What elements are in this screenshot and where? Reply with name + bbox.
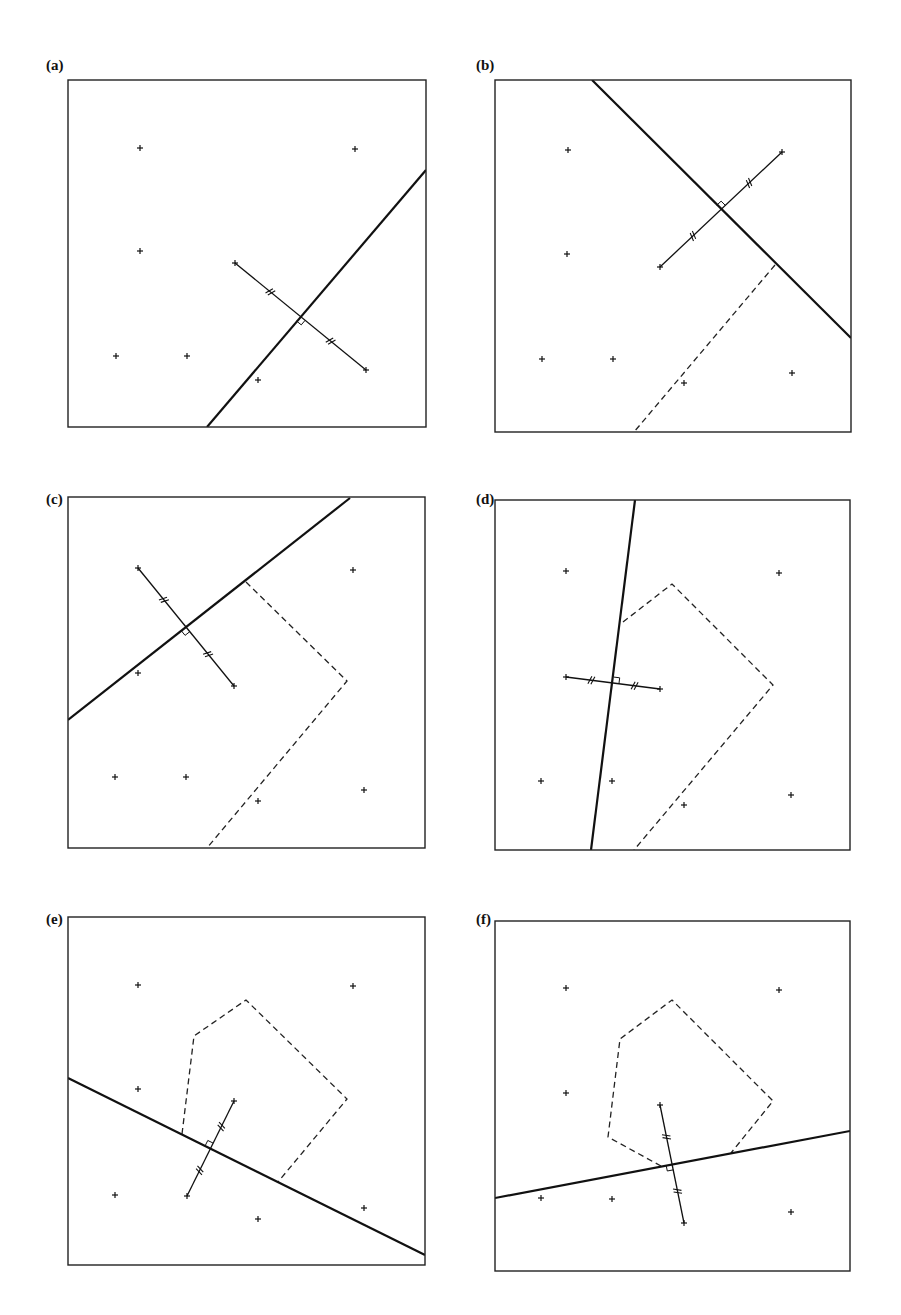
site-point-icon: [113, 353, 119, 359]
equal-length-tick-icon: [663, 1138, 671, 1139]
site-point-icon: [539, 356, 545, 362]
site-point-icon: [609, 1196, 615, 1202]
panel-b: [495, 80, 851, 432]
site-point-icon: [564, 251, 570, 257]
site-point-icon: [255, 798, 261, 804]
site-point-icon: [255, 377, 261, 383]
panel-c: [68, 497, 425, 848]
site-point-icon: [352, 146, 358, 152]
site-point-icon: [563, 985, 569, 991]
connecting-segment: [235, 263, 366, 370]
site-point-icon: [776, 987, 782, 993]
equal-length-tick-icon: [674, 1192, 682, 1193]
perpendicular-bisector-line: [68, 1078, 425, 1255]
equal-length-tick-icon: [746, 180, 749, 188]
site-point-icon: [789, 370, 795, 376]
site-point-icon: [112, 774, 118, 780]
panel-frame: [495, 80, 851, 432]
site-point-icon: [776, 570, 782, 576]
panel-content: [539, 80, 851, 432]
equal-length-tick-icon: [662, 1135, 670, 1136]
site-point-icon: [137, 248, 143, 254]
perpendicular-bisector-line: [68, 498, 350, 720]
site-point-icon: [681, 802, 687, 808]
connecting-segment: [187, 1101, 234, 1196]
panel-d: [495, 500, 850, 850]
site-point-icon: [565, 147, 571, 153]
panel-f: [495, 921, 850, 1271]
panel-frame: [495, 500, 850, 850]
site-point-icon: [135, 670, 141, 676]
site-point-icon: [255, 1216, 261, 1222]
panel-frame: [495, 921, 850, 1271]
site-point-icon: [135, 1086, 141, 1092]
equal-length-tick-icon: [692, 231, 695, 239]
panel-content: [113, 145, 426, 427]
equal-length-tick-icon: [748, 178, 751, 186]
panel-frame: [68, 917, 425, 1265]
site-point-icon: [112, 1192, 118, 1198]
site-point-icon: [184, 353, 190, 359]
site-point-icon: [361, 1205, 367, 1211]
dashed-region-boundary: [634, 265, 775, 432]
site-point-icon: [609, 778, 615, 784]
equal-length-tick-icon: [673, 1189, 681, 1190]
panel-a: [68, 80, 426, 427]
perpendicular-bisector-line: [591, 500, 635, 850]
panel-frame: [68, 497, 425, 848]
site-point-icon: [350, 567, 356, 573]
perpendicular-bisector-line: [207, 170, 426, 427]
site-point-icon: [183, 774, 189, 780]
dashed-region-boundary: [207, 582, 347, 848]
site-point-icon: [135, 982, 141, 988]
panel-frame: [68, 80, 426, 427]
panel-e: [68, 917, 425, 1265]
site-point-icon: [788, 1209, 794, 1215]
dashed-region-boundary: [608, 1000, 773, 1166]
panel-content: [538, 500, 794, 850]
site-point-icon: [788, 792, 794, 798]
site-point-icon: [137, 145, 143, 151]
site-point-icon: [350, 983, 356, 989]
site-point-icon: [610, 356, 616, 362]
equal-length-tick-icon: [690, 233, 693, 241]
site-point-icon: [563, 1090, 569, 1096]
site-point-icon: [538, 1195, 544, 1201]
figure-canvas: [0, 0, 901, 1315]
panel-content: [68, 498, 367, 848]
site-point-icon: [361, 787, 367, 793]
right-angle-icon: [181, 631, 190, 636]
site-point-icon: [681, 380, 687, 386]
panel-content: [68, 982, 425, 1255]
site-point-icon: [563, 568, 569, 574]
dashed-region-boundary: [623, 584, 773, 850]
connecting-segment: [138, 568, 234, 686]
panel-content: [495, 985, 850, 1226]
site-point-icon: [538, 778, 544, 784]
